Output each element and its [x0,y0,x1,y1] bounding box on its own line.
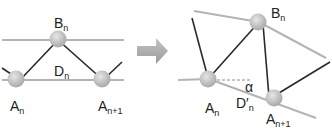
label-d-prime-n: D′n [236,95,254,113]
label-b-n: Bn [54,15,68,33]
right-arrow-icon [137,38,168,64]
label-d-n: Dn [54,63,69,81]
label-alpha: α [245,79,253,95]
node-b-n [250,14,267,31]
label-b-n: Bn [271,5,285,23]
bond-bn-an1 [263,24,269,97]
node-a-n1 [266,90,283,107]
top-chain-line-deformed-1 [194,11,259,22]
top-chain-line-deformed-2 [259,22,326,58]
label-a-n: An [205,100,219,118]
label-a-n1: An+1 [266,111,291,129]
node-a-n1 [94,71,111,88]
bond-an-bn [20,40,58,80]
node-a-n [200,71,217,88]
diagram-canvas: Bn Dn An An+1 Bn α D′n An An+1 [0,0,332,134]
label-a-n1: An+1 [98,98,123,116]
right-diagram: Bn α D′n An An+1 [178,5,330,129]
node-a-n [8,71,25,88]
bond-an-bn [209,22,259,78]
left-diagram: Bn Dn An An+1 [2,15,124,116]
bottom-chain-line-tilted [209,79,316,118]
node-b-n [50,31,67,48]
bond-an1-right-stub [274,62,330,96]
bond-an-left-stub [192,18,208,78]
label-a-n: An [10,98,24,116]
